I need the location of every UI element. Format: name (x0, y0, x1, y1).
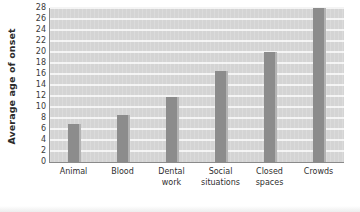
y-axis-tick-label: 18 (24, 59, 46, 67)
bar (264, 52, 277, 162)
y-axis-tick-label: 16 (24, 70, 46, 78)
bar (313, 8, 326, 162)
bar (117, 115, 130, 162)
x-axis-tick-label-line: Crowds (294, 167, 343, 178)
plot-area (49, 8, 344, 163)
y-axis-tick-label: 6 (24, 125, 46, 133)
x-axis-tick-label: Socialsituations (196, 167, 245, 188)
x-axis-tick-label-line: spaces (245, 178, 294, 189)
x-axis-tick-label-line: Social (196, 167, 245, 178)
x-axis-tick-label: Crowds (294, 167, 343, 178)
y-axis-tick-label: 20 (24, 48, 46, 56)
x-axis-tick-label: Closedspaces (245, 167, 294, 188)
bar (68, 124, 81, 163)
x-axis-tick-labels: AnimalBloodDentalworkSocialsituationsClo… (49, 167, 343, 209)
y-axis-tick-label: 12 (24, 92, 46, 100)
y-axis-tick-label: 0 (24, 158, 46, 166)
x-axis-tick-label-line: work (147, 178, 196, 189)
y-axis-tick-label: 28 (24, 4, 46, 12)
y-axis-tick-label: 14 (24, 81, 46, 89)
x-axis-tick-label-line: situations (196, 178, 245, 189)
bar (215, 71, 228, 162)
y-axis-tick-label: 10 (24, 103, 46, 111)
x-axis-tick-label-line: Animal (49, 167, 98, 178)
y-axis-tick-label: 24 (24, 26, 46, 34)
x-axis-tick-label: Dentalwork (147, 167, 196, 188)
bar (166, 97, 179, 162)
y-axis-tick-label: 26 (24, 15, 46, 23)
y-axis-tick-label: 2 (24, 147, 46, 155)
x-axis-tick-label-line: Dental (147, 167, 196, 178)
y-axis-tick-label: 4 (24, 136, 46, 144)
y-axis-tick-labels: 2826242220181614121086420 (24, 8, 46, 162)
bar-chart: Average age of onset 2826242220181614121… (0, 0, 360, 212)
x-axis-tick-label-line: Blood (98, 167, 147, 178)
y-axis-tick-label: 22 (24, 37, 46, 45)
y-axis-tick-label: 8 (24, 114, 46, 122)
bar-series (50, 8, 344, 162)
x-axis-tick-label: Blood (98, 167, 147, 178)
x-axis-tick-label: Animal (49, 167, 98, 178)
y-axis-title: Average age of onset (0, 0, 22, 172)
x-axis-tick-label-line: Closed (245, 167, 294, 178)
y-axis-title-text: Average age of onset (6, 28, 17, 144)
